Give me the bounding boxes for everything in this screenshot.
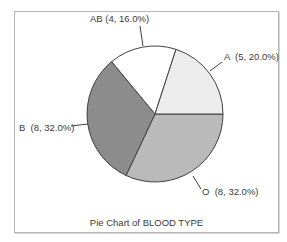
slice-label-b: B (8, 32.0%) [19,122,74,133]
slice-label-a: A (5, 20.0%) [224,51,279,62]
leader-line-ab [140,26,143,46]
slice-label-ab: AB (4, 16.0%) [90,13,149,24]
slice-label-o: O (8, 32.0%) [202,186,259,197]
leader-line-o [193,176,201,189]
chart-title: Pie Chart of BLOOD TYPE [14,217,279,228]
pie-chart: A (5, 20.0%) AB (4, 16.0%) B (8, 32.0%) … [0,0,287,242]
pie-slices [87,46,223,182]
leader-line-a [210,62,222,71]
